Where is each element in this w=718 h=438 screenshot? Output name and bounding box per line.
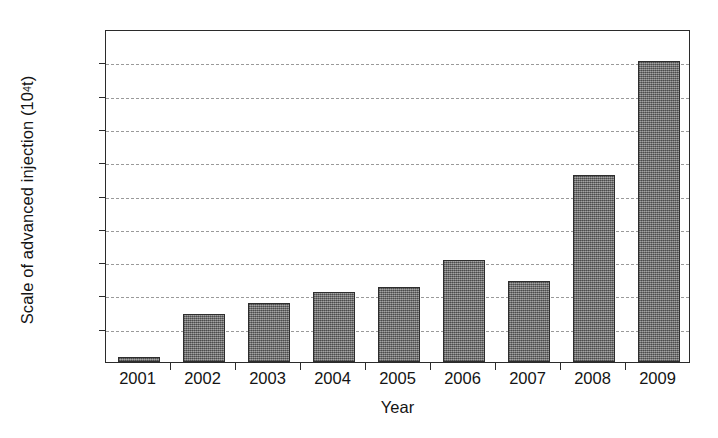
gridline [106,64,689,65]
bar-2006 [443,260,485,362]
bar-2007 [508,281,550,362]
bar-2003 [248,303,290,362]
y-tick-mark [99,197,106,198]
y-tick-mark [99,63,106,64]
y-axis-title-tail: t) [18,76,37,86]
x-axis-title: Year [105,398,690,417]
bar-2001 [118,357,160,362]
bar-2004 [313,292,355,362]
bar-chart: Scale of advanced injection (104t) Year … [0,0,718,438]
y-tick-mark [99,330,106,331]
bar-2008 [573,175,615,362]
y-axis-title-text: Scale of advanced injection (10 [18,92,37,324]
bar-2009 [638,61,680,362]
gridline [106,98,689,99]
plot-area [105,30,690,363]
y-tick-mark [99,130,106,131]
y-tick-mark [99,163,106,164]
bar-2005 [378,287,420,362]
y-axis-title: Scale of advanced injection (104t) [14,30,40,370]
y-tick-mark [99,230,106,231]
gridline [106,164,689,165]
bar-2002 [183,314,225,362]
y-tick-mark [99,296,106,297]
y-tick-mark [99,263,106,264]
x-tick-label-2009: 2009 [618,369,698,388]
gridline [106,131,689,132]
y-tick-mark [99,97,106,98]
